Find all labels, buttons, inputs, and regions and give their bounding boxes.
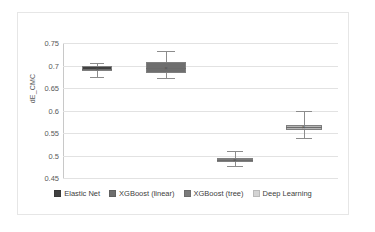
whisker-upper [166,51,167,63]
whisker-cap-upper [90,63,104,64]
legend-swatch-icon [184,190,191,197]
y-tick-label: 0.7 [49,61,59,70]
chart-container: dE_CMC 0.750.70.650.60.550.50.45 ×××× El… [17,12,349,215]
legend-swatch-icon [109,190,116,197]
boxplot[interactable]: × [146,43,186,178]
y-tick-label: 0.6 [49,106,59,115]
boxplot[interactable]: × [217,43,253,178]
legend-item[interactable]: XGBoost (tree) [184,189,244,198]
chart-legend: Elastic NetXGBoost (linear)XGBoost (tree… [18,189,348,198]
whisker-cap-lower [227,166,243,167]
gridline [63,178,338,179]
mean-marker: × [302,124,306,130]
boxplot[interactable]: × [82,43,112,178]
boxplot[interactable]: × [286,43,322,178]
y-tick-label: 0.65 [44,84,59,93]
whisker-cap-upper [296,111,312,112]
legend-swatch-icon [253,190,260,197]
whisker-cap-lower [157,78,175,79]
whisker-cap-upper [227,151,243,152]
legend-label: XGBoost (linear) [119,189,174,198]
y-tick-label: 0.55 [44,129,59,138]
whisker-lower [304,130,305,139]
y-tick-label: 0.5 [49,151,59,160]
legend-label: XGBoost (tree) [194,189,244,198]
legend-label: Elastic Net [64,189,100,198]
whisker-cap-lower [90,77,104,78]
legend-item[interactable]: XGBoost (linear) [109,189,174,198]
whisker-cap-lower [296,138,312,139]
plot-area: 0.750.70.650.60.550.50.45 ×××× [63,43,338,178]
y-axis-title: dE_CMC [29,59,36,119]
mean-marker: × [233,157,237,163]
legend-item[interactable]: Elastic Net [54,189,100,198]
y-tick-label: 0.75 [44,39,59,48]
legend-item[interactable]: Deep Learning [253,189,312,198]
legend-swatch-icon [54,190,61,197]
mean-marker: × [96,66,100,72]
whisker-upper [304,111,305,125]
mean-marker: × [164,65,168,71]
y-tick-label: 0.45 [44,174,59,183]
legend-label: Deep Learning [263,189,312,198]
whisker-cap-upper [157,51,175,52]
